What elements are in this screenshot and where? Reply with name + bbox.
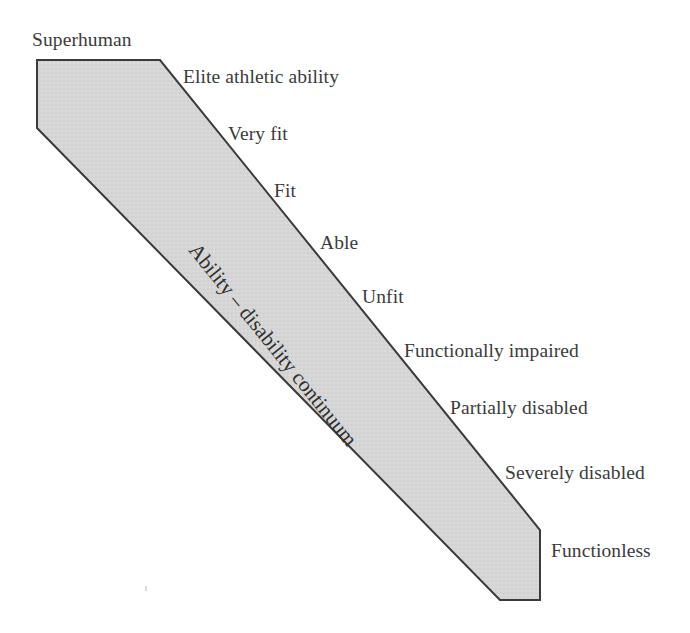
label-very-fit: Very fit — [228, 124, 288, 144]
label-unfit: Unfit — [362, 287, 404, 307]
label-severely-disabled: Severely disabled — [505, 463, 645, 483]
label-partially-disabled: Partially disabled — [450, 398, 588, 418]
label-able: Able — [320, 233, 358, 253]
continuum-band-shape — [0, 0, 690, 633]
ability-disability-band — [37, 60, 540, 600]
figure-canvas: Ability – disability continuum Superhuma… — [0, 0, 690, 633]
label-fit: Fit — [274, 181, 296, 201]
label-elite-athletic-ability: Elite athletic ability — [183, 67, 339, 87]
label-superhuman: Superhuman — [32, 30, 132, 50]
label-functionless: Functionless — [551, 541, 651, 561]
scan-artifact-speck — [145, 586, 147, 591]
label-functionally-impaired: Functionally impaired — [404, 341, 579, 361]
